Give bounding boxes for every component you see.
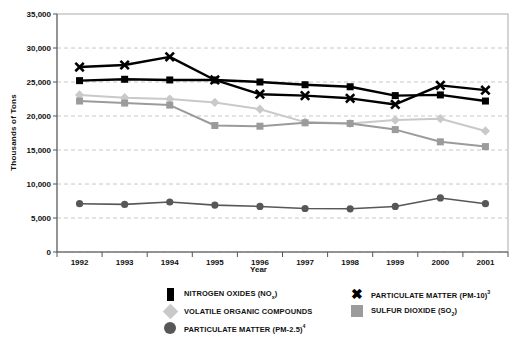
data-point xyxy=(437,91,444,98)
data-point xyxy=(392,203,399,210)
data-point xyxy=(347,205,354,212)
data-point xyxy=(482,200,489,207)
legend-item-pm10[interactable]: ✖PARTICULATE MATTER (PM-10)3 xyxy=(350,287,490,301)
data-point xyxy=(211,122,218,129)
legend-marker-pm10-icon: ✖ xyxy=(350,287,364,301)
data-point xyxy=(302,81,309,88)
data-point xyxy=(437,194,444,201)
data-point xyxy=(301,205,308,212)
data-point xyxy=(256,79,263,86)
data-point xyxy=(76,77,83,84)
legend-label-so2: SULFUR DIOXIDE (SO2) xyxy=(371,306,457,317)
data-point xyxy=(392,126,399,133)
legend-marker-voc-icon xyxy=(163,304,177,318)
data-point xyxy=(121,76,128,83)
legend-marker-nox-icon xyxy=(163,287,177,301)
data-point xyxy=(482,143,489,150)
legend-label-pm10: PARTICULATE MATTER (PM-10)3 xyxy=(371,289,490,300)
data-point xyxy=(211,201,218,208)
data-point xyxy=(256,203,263,210)
legend-item-voc[interactable]: VOLATILE ORGANIC COMPOUNDS xyxy=(163,304,312,318)
plot-frame xyxy=(57,14,508,252)
data-point xyxy=(211,76,218,83)
legend-marker-so2-icon xyxy=(350,304,364,318)
data-point xyxy=(121,100,128,107)
data-point xyxy=(76,98,83,105)
legend-item-nox[interactable]: NITROGEN OXIDES (NOx) xyxy=(163,287,277,301)
data-point xyxy=(76,200,83,207)
emissions-trend-chart: Thousands of Tons Year 05,00010,00015,00… xyxy=(0,0,517,338)
legend-item-pm25[interactable]: PARTICULATE MATTER (PM-2.5)4 xyxy=(163,321,306,335)
legend-label-pm25: PARTICULATE MATTER (PM-2.5)4 xyxy=(184,323,306,334)
data-point xyxy=(392,92,399,99)
data-point xyxy=(347,120,354,127)
data-point xyxy=(121,201,128,208)
data-point xyxy=(166,76,173,83)
data-point xyxy=(302,119,309,126)
legend-marker-pm25-icon xyxy=(163,321,177,335)
chart-legend: NITROGEN OXIDES (NOx)✖PARTICULATE MATTER… xyxy=(0,285,517,338)
data-point xyxy=(482,98,489,105)
data-point xyxy=(166,198,173,205)
data-point xyxy=(437,138,444,145)
data-point xyxy=(256,123,263,130)
data-point xyxy=(347,83,354,90)
legend-label-voc: VOLATILE ORGANIC COMPOUNDS xyxy=(184,307,312,316)
data-point xyxy=(166,102,173,109)
legend-item-so2[interactable]: SULFUR DIOXIDE (SO2) xyxy=(350,304,457,318)
legend-label-nox: NITROGEN OXIDES (NOx) xyxy=(184,289,277,300)
